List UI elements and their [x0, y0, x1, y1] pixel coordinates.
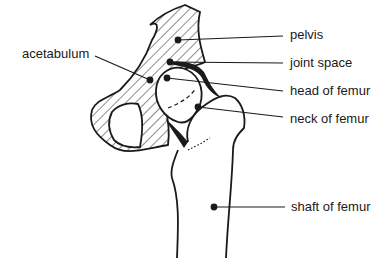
hip-joint-diagram	[0, 0, 389, 276]
obturator-foramen	[109, 103, 142, 147]
neck-hatching	[188, 138, 210, 150]
label-joint-space: joint space	[290, 56, 352, 70]
label-acetabulum: acetabulum	[22, 47, 89, 61]
label-neck-of-femur: neck of femur	[290, 112, 369, 126]
label-pelvis: pelvis	[290, 28, 323, 42]
label-shaft-of-femur: shaft of femur	[291, 200, 370, 214]
label-head-of-femur: head of femur	[290, 84, 370, 98]
